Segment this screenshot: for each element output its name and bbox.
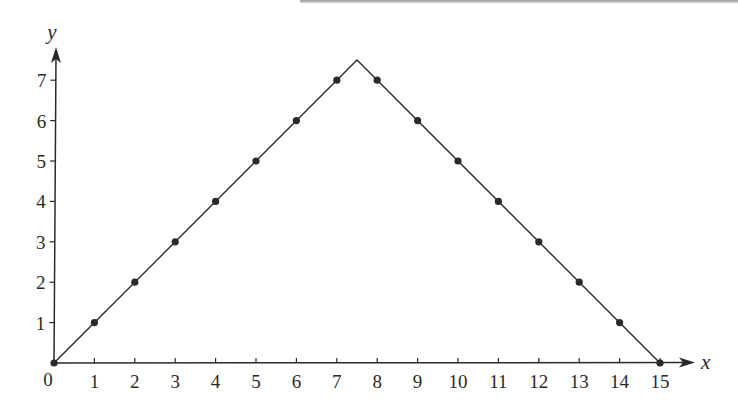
x-tick-label: 14 <box>610 371 630 392</box>
y-tick-label: 5 <box>37 151 47 172</box>
x-tick-label: 9 <box>413 371 423 392</box>
data-point <box>333 77 340 84</box>
data-point <box>656 359 663 366</box>
x-tick-label: 4 <box>211 371 221 392</box>
data-point <box>172 238 179 245</box>
x-tick-label: 11 <box>489 371 507 392</box>
x-tick-label: 2 <box>130 371 140 392</box>
y-tick-label: 3 <box>36 232 46 253</box>
y-tick-label: 4 <box>36 191 46 212</box>
x-tick-label: 12 <box>529 371 548 392</box>
y-tick-label: 1 <box>36 313 46 334</box>
data-point <box>495 198 502 205</box>
axes <box>51 47 695 368</box>
x-tick-label: 5 <box>251 371 261 392</box>
triangle-line <box>54 60 660 363</box>
x-tick-label: 1 <box>90 371 100 392</box>
x-tick-label: 15 <box>651 371 670 392</box>
y-axis-line <box>54 55 56 363</box>
y-axis-label: y <box>45 20 57 44</box>
x-tick-label: 13 <box>570 371 589 392</box>
y-tick-label: 2 <box>36 272 46 293</box>
series-points <box>50 77 663 367</box>
y-tick-label: 6 <box>37 111 47 132</box>
data-point <box>414 117 421 124</box>
x-tick-label: 3 <box>170 371 180 392</box>
data-point <box>374 77 381 84</box>
data-point <box>131 279 138 286</box>
data-point <box>616 319 623 326</box>
data-point <box>576 279 583 286</box>
x-tick-label: 8 <box>372 371 382 392</box>
data-point <box>454 157 461 164</box>
ticks <box>49 80 660 363</box>
data-point <box>212 198 219 205</box>
origin-label: 0 <box>43 369 53 390</box>
triangle-line-chart: 12345678910111213141512345670xy <box>0 0 738 419</box>
data-point <box>293 117 300 124</box>
x-axis-label: x <box>700 350 711 374</box>
x-tick-label: 7 <box>332 371 342 392</box>
data-point <box>50 359 57 366</box>
x-tick-label: 6 <box>292 371 302 392</box>
data-point <box>252 157 259 164</box>
y-tick-label: 7 <box>37 70 47 91</box>
x-tick-label: 10 <box>449 371 468 392</box>
data-point <box>535 238 542 245</box>
x-axis-line <box>54 363 687 364</box>
data-point <box>91 319 98 326</box>
series-line <box>54 60 660 363</box>
